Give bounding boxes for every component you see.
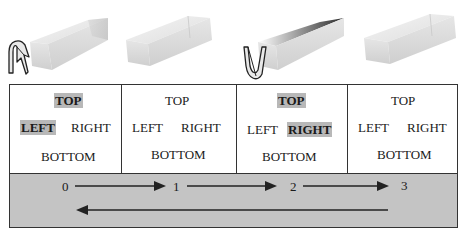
label-right: RIGHT	[406, 120, 448, 135]
label-bottom: BOTTOM	[40, 149, 97, 164]
transition-arrows	[10, 174, 459, 227]
label-bottom: BOTTOM	[150, 147, 207, 162]
label-top: TOP	[164, 93, 190, 108]
twist-arrow-right-icon	[244, 47, 266, 79]
face-cells-row: TOP LEFT RIGHT BOTTOM TOP LEFT RIGHT BOT…	[10, 85, 457, 173]
twist-arrow-left-icon	[9, 41, 29, 74]
orientation-table: TOP LEFT RIGHT BOTTOM TOP LEFT RIGHT BOT…	[9, 84, 458, 228]
label-bottom: BOTTOM	[376, 147, 433, 162]
cell-0: TOP LEFT RIGHT BOTTOM	[10, 85, 122, 173]
beam-1	[126, 16, 212, 66]
label-left: LEFT	[246, 122, 279, 137]
cell-2: TOP LEFT RIGHT BOTTOM	[237, 85, 348, 173]
beam-0	[30, 18, 108, 70]
cell-3: TOP LEFT RIGHT BOTTOM	[348, 85, 456, 173]
label-right: RIGHT	[70, 120, 112, 135]
label-left: LEFT	[20, 120, 56, 135]
state-transition-band: 0 1 2 3	[10, 173, 457, 227]
arrow-return-3-to-0-icon	[76, 205, 388, 215]
beam-3	[364, 14, 456, 64]
cell-1: TOP LEFT RIGHT BOTTOM	[122, 85, 237, 173]
label-top: TOP	[54, 93, 83, 108]
label-left: LEFT	[357, 120, 390, 135]
arrow-1-to-2-icon	[187, 181, 277, 191]
label-right: RIGHT	[287, 122, 332, 137]
label-right: RIGHT	[180, 120, 222, 135]
beam-2	[258, 18, 344, 70]
label-top: TOP	[390, 93, 416, 108]
label-top: TOP	[277, 93, 306, 108]
label-bottom: BOTTOM	[261, 149, 318, 164]
arrow-2-to-3-icon	[303, 181, 389, 191]
label-left: LEFT	[131, 120, 164, 135]
arrow-0-to-1-icon	[75, 181, 166, 191]
beam-illustrations	[0, 0, 468, 84]
